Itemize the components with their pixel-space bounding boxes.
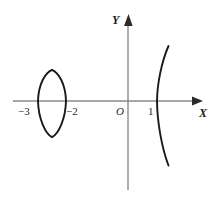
origin-label: O [116,105,124,117]
x-tick-label-1: 1 [148,105,154,117]
math-figure: Y X O −3 −2 1 [0,0,217,202]
x-axis-arrow-icon [192,97,203,106]
x-tick-label-neg2: −2 [66,105,78,117]
x-tick-label-neg3: −3 [18,105,30,117]
coordinate-plane-svg: Y X O −3 −2 1 [0,0,217,202]
x-axis-label: X [198,106,208,120]
right-branch-curve [157,46,169,166]
y-axis-label: Y [112,13,121,27]
closed-lens-curve [38,70,66,137]
y-axis-arrow-icon [124,14,133,26]
